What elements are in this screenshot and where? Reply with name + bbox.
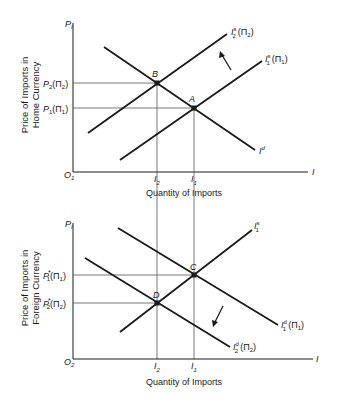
top-supply2-label: Is2(Π2): [231, 26, 254, 39]
top-panel: B A PI O1 I P2(Π2) P1(Π1) I2 I1 Quantity…: [19, 19, 315, 198]
svg-text:Home Currency: Home Currency: [30, 61, 41, 128]
bottom-panel: C D PI O2 I P*1(Π1) P*2(Π2) I2 I1 Quanti…: [19, 219, 319, 387]
bottom-x-symbol: I: [316, 354, 319, 364]
point-c-marker: [192, 273, 197, 278]
bottom-demand2-label: Id2(Π2): [233, 341, 256, 354]
bottom-supply-label: Is1: [254, 220, 260, 233]
bottom-demand1-label: Id1(Π1): [281, 319, 304, 332]
bottom-price-label-p2star: P*2(Π2): [43, 297, 66, 310]
bottom-x-axis-title: Quantity of Imports: [146, 377, 223, 387]
bottom-price-label-p1star: P*1(Π1): [43, 269, 66, 282]
svg-text:Price of Imports in: Price of Imports in: [19, 57, 30, 134]
point-b-marker: [155, 81, 160, 86]
top-supply1-label: Is1(Π1): [265, 53, 288, 66]
top-y-axis-title: Price of Imports in Home Currency: [19, 57, 41, 134]
top-y-symbol: PI: [65, 19, 73, 30]
point-c-label: C: [190, 262, 197, 272]
top-shift-arrow-icon: [219, 51, 231, 70]
bottom-shift-arrow-icon: [212, 306, 223, 327]
bottom-y-symbol: PI: [65, 219, 73, 230]
svg-text:Price of Imports in: Price of Imports in: [19, 250, 30, 327]
bottom-y-axis-title: Price of Imports in Foreign Currency: [19, 250, 41, 327]
bottom-qty-label-i1: I1: [191, 361, 197, 373]
bottom-supply-curve: [120, 230, 252, 332]
bottom-qty-label-i2: I2: [154, 361, 161, 373]
top-demand-curve: [104, 47, 255, 150]
point-a-label: A: [188, 94, 195, 104]
top-demand-label: Id: [259, 145, 266, 156]
top-x-axis-title: Quantity of Imports: [146, 188, 223, 198]
top-price-label-p2: P2(Π2): [43, 79, 68, 90]
top-supply1-curve: [120, 61, 262, 160]
point-a-marker: [192, 106, 197, 111]
point-d-label: D: [153, 290, 160, 300]
point-b-label: B: [152, 69, 158, 79]
top-price-label-p1: P1(Π1): [43, 104, 68, 115]
diagram-canvas: B A PI O1 I P2(Π2) P1(Π1) I2 I1 Quantity…: [0, 0, 337, 402]
bottom-demand1-curve: [118, 228, 278, 325]
point-d-marker: [155, 301, 160, 306]
top-x-symbol: I: [312, 167, 315, 177]
svg-text:Foreign Currency: Foreign Currency: [30, 251, 41, 325]
